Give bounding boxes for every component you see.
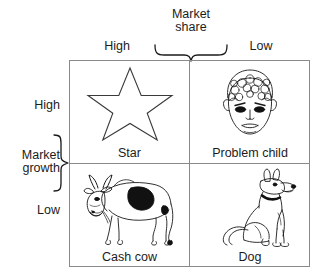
market-growth-axis-title: Market growth <box>2 149 60 175</box>
star-icon <box>80 65 180 143</box>
star-art <box>70 61 189 146</box>
quadrant-dog[interactable]: Dog <box>190 164 310 267</box>
market-share-low-label: Low <box>232 40 290 53</box>
quadrant-dog-label: Dog <box>239 250 262 267</box>
quadrant-cash-cow-label: Cash cow <box>102 250 157 267</box>
dog-icon <box>199 166 301 248</box>
quadrant-star-label: Star <box>118 146 141 163</box>
market-growth-low-label: Low <box>14 204 60 217</box>
quadrant-problem-child-label: Problem child <box>212 146 288 163</box>
bcg-matrix-diagram: Market share High Low Market growth High… <box>0 0 326 280</box>
market-growth-title-line2: growth <box>2 162 60 175</box>
quadrant-problem-child[interactable]: Problem child <box>190 61 310 163</box>
matrix-grid: Star <box>69 60 310 267</box>
market-growth-high-label: High <box>14 99 60 112</box>
quadrant-cash-cow[interactable]: Cash cow <box>70 164 189 267</box>
quadrant-star[interactable]: Star <box>70 61 189 163</box>
problem-child-art <box>190 61 310 146</box>
dog-art <box>190 164 310 250</box>
market-share-title-line2: share <box>148 21 234 34</box>
child-face-icon <box>211 64 289 144</box>
market-share-axis-title: Market share <box>148 8 234 34</box>
cow-icon <box>74 166 186 248</box>
cash-cow-art <box>70 164 189 250</box>
market-share-high-label: High <box>88 40 146 53</box>
